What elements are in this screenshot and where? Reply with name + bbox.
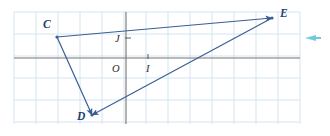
vertex-point-d [90,113,93,116]
triangle-vertices [55,16,273,116]
label-o: O [112,63,120,74]
axis-point-labels: J O I [112,33,150,74]
vertex-point-e [270,16,273,19]
axis-lines [14,12,300,124]
vertex-label-e: E [279,7,288,19]
label-i: I [145,63,150,74]
vertex-label-d: D [76,110,86,122]
coordinate-figure: C D E J O I [0,0,330,136]
right-arrow-icon [305,35,321,41]
vertex-label-c: C [43,18,51,30]
edge-c-to-d [57,37,92,115]
vertex-point-c [55,35,58,38]
figure-container: C D E J O I [0,0,330,136]
right-edge-arrow-icon [305,35,321,41]
grid-lines [14,12,300,124]
label-j: J [115,33,121,44]
